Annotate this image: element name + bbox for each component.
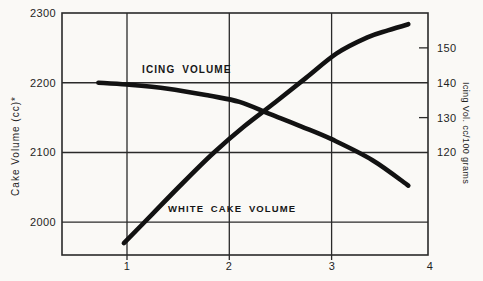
right-axis-tick-label: 140 (437, 77, 471, 89)
white-cake-curve-label: WHITE CAKE VOLUME (168, 203, 296, 214)
icing-volume-curve (98, 83, 408, 186)
right-axis-title: Icing Vol. cc/100 grams (461, 82, 471, 184)
right-axis-tick-label: 150 (437, 42, 471, 54)
x-axis-tick-label: 3 (324, 260, 340, 272)
right-axis-tick-label: 120 (437, 146, 471, 158)
chart-canvas (0, 0, 483, 281)
x-axis-tick-label: 4 (422, 260, 438, 272)
left-axis-tick-label: 2300 (16, 7, 56, 19)
chart-figure: Cake Volume (cc)* Icing Vol. cc/100 gram… (0, 0, 483, 281)
x-axis-tick-label: 2 (221, 260, 237, 272)
left-axis-tick-label: 2000 (16, 216, 56, 228)
plot-border (62, 13, 428, 255)
left-axis-tick-label: 2100 (16, 146, 56, 158)
icing-curve-label: ICING VOLUME (142, 64, 232, 75)
x-axis-tick-label: 1 (119, 260, 135, 272)
right-axis-tick-label: 130 (437, 112, 471, 124)
left-axis-tick-label: 2200 (16, 77, 56, 89)
